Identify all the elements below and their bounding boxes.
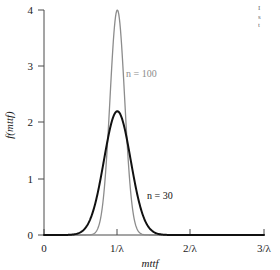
series-line-n30 [44, 111, 264, 235]
caption-line-2: s [258, 13, 280, 22]
x-axis-title: mttf [141, 257, 160, 269]
y-tick-label-2: 2 [28, 116, 34, 128]
caption-line-3: t [258, 21, 280, 30]
chart-canvas: 4 3 2 1 0 0 1/λ 2/λ 3/λ mttf f(mttf) n =… [0, 0, 280, 270]
y-tick-label-3: 3 [28, 60, 34, 72]
x-tick-label-3: 3/λ [257, 242, 272, 254]
side-caption: I s t [258, 4, 280, 30]
series-line-n100 [44, 10, 264, 235]
x-tick-label-2: 2/λ [183, 242, 198, 254]
y-tick-label-4: 4 [28, 4, 34, 16]
x-tick-label-0: 0 [41, 242, 47, 254]
x-tick-label-1: 1/λ [110, 242, 125, 254]
y-tick-label-1: 1 [28, 173, 34, 185]
series-annotation-n100: n = 100 [126, 68, 157, 79]
y-tick-marks [38, 10, 44, 235]
caption-line-1: I [258, 4, 280, 13]
y-tick-label-0: 0 [28, 229, 34, 241]
figure-container: 4 3 2 1 0 0 1/λ 2/λ 3/λ mttf f(mttf) n =… [0, 0, 280, 270]
y-axis-title: f(mttf) [3, 111, 16, 139]
axes-group [44, 10, 264, 235]
series-annotation-n30: n = 30 [147, 190, 173, 201]
